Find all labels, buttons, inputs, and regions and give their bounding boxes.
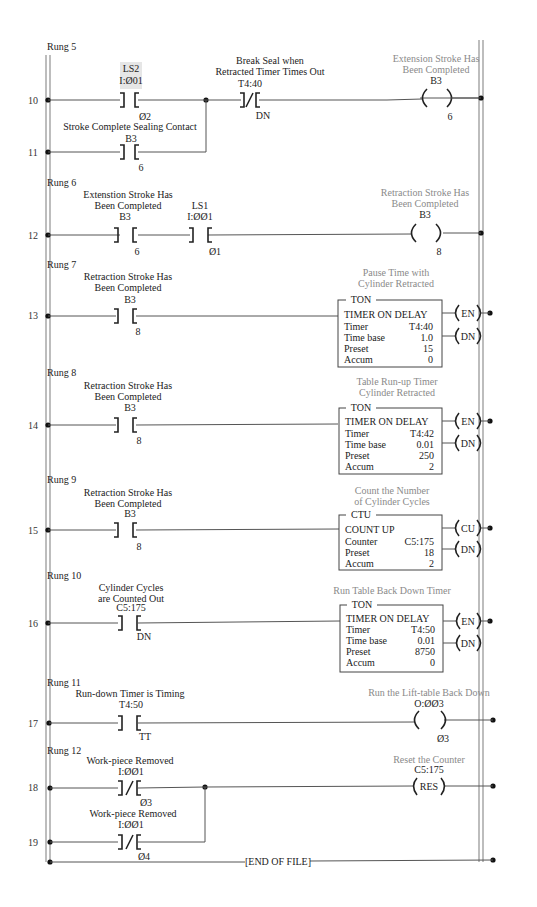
svg-text:DN: DN (256, 110, 270, 121)
svg-text:DN: DN (137, 631, 151, 642)
rung-9[interactable]: Rung 9 15 Retraction Stroke Has Been Com… (28, 474, 493, 570)
output-coil-b3-6[interactable]: Extension Stroke Has Been Completed B3 6 (387, 53, 479, 122)
svg-text:T4:40: T4:40 (238, 78, 262, 89)
svg-text:Been Completed: Been Completed (403, 64, 470, 75)
ctu-block-c5-175[interactable]: Count the Number of Cylinder Cycles CTU … (339, 485, 490, 570)
res-instruction-c5-175[interactable]: Reset the Counter C5:175 RES (393, 754, 465, 795)
svg-text:I:ØØ1: I:ØØ1 (118, 766, 144, 777)
svg-text:6: 6 (448, 111, 453, 122)
block-type-label: TON (351, 294, 371, 305)
contact-left-bracket (120, 93, 124, 107)
rung-label: Rung 8 (47, 367, 76, 378)
svg-text:Been Completed: Been Completed (95, 391, 162, 402)
xio-contact-i-001-03[interactable]: Work-piece Removed I:ØØ1 Ø3 (86, 755, 173, 808)
svg-text:Extension Stroke Has: Extension Stroke Has (393, 53, 480, 64)
svg-text:Cylinder Cycles: Cylinder Cycles (99, 582, 164, 593)
xic-contact-b3-8[interactable]: Retraction Stroke Has Been Completed B3 … (84, 487, 172, 552)
output-coil-b3-8[interactable]: Retraction Stroke Has Been Completed B3 … (381, 187, 469, 257)
rung-8[interactable]: Rung 8 14 Retraction Stroke Has Been Com… (28, 367, 493, 474)
svg-text:I:ØØ1: I:ØØ1 (118, 819, 144, 830)
svg-text:CU: CU (461, 523, 476, 534)
line-number: 10 (28, 95, 38, 106)
svg-text:Ø4: Ø4 (138, 851, 150, 862)
rung-12[interactable]: Rung 12 18 19 Work-piece Removed I:ØØ1 Ø… (28, 745, 496, 862)
svg-text:Retraction Stroke Has: Retraction Stroke Has (84, 271, 172, 282)
svg-text:Been Completed: Been Completed (95, 282, 162, 293)
rung-5[interactable]: Rung 5 10 11 LS2 I:Ø01 Ø2 Break Seal whe… (28, 41, 484, 173)
svg-text:Retraction Stroke Has: Retraction Stroke Has (84, 380, 172, 391)
svg-text:6: 6 (135, 246, 140, 257)
rung-10[interactable]: Rung 10 16 Cylinder Cycles are Counted O… (28, 570, 493, 672)
xic-contact-t4-50-tt[interactable]: Run-down Timer is Timing T4:50 TT (75, 688, 184, 742)
svg-text:8750: 8750 (415, 646, 435, 657)
svg-text:Timer: Timer (346, 624, 371, 635)
svg-text:B3: B3 (125, 133, 137, 144)
xic-contact-b3-6-seal[interactable]: Stroke Complete Sealing Contact B3 6 (63, 121, 197, 173)
svg-text:CTU: CTU (351, 509, 372, 520)
xio-contact-t4-40-dn[interactable]: Break Seal when Retracted Timer Times Ou… (215, 55, 324, 121)
svg-text:1.0: 1.0 (421, 332, 434, 343)
svg-text:Timer: Timer (345, 428, 370, 439)
svg-text:Cylinder Retracted: Cylinder Retracted (358, 278, 434, 289)
line-number: 14 (28, 420, 38, 431)
svg-text:2: 2 (429, 461, 434, 472)
svg-text:Accum: Accum (345, 461, 374, 472)
rung-label: Rung 10 (47, 570, 81, 581)
svg-text:Ø3: Ø3 (140, 797, 152, 808)
line-number: 16 (28, 618, 38, 629)
rung-11[interactable]: Rung 11 17 Run-down Timer is Timing T4:5… (28, 677, 496, 744)
svg-text:LS2: LS2 (123, 63, 140, 74)
rung-label: Rung 7 (47, 259, 76, 270)
line-number: 12 (28, 230, 38, 241)
svg-text:B3: B3 (419, 209, 431, 220)
right-power-rail (479, 40, 483, 862)
svg-text:Preset: Preset (344, 343, 369, 354)
svg-text:Been Completed: Been Completed (392, 198, 459, 209)
svg-text:C5:175: C5:175 (414, 764, 443, 775)
svg-text:Preset: Preset (346, 646, 371, 657)
svg-text:RES: RES (420, 781, 438, 792)
xic-contact-ls1[interactable]: LS1 I:ØØ1 Ø1 (187, 200, 221, 257)
xic-contact-b3-8[interactable]: Retraction Stroke Has Been Completed B3 … (84, 271, 172, 337)
svg-text:TIMER ON DELAY: TIMER ON DELAY (346, 613, 430, 624)
rung-label: Rung 11 (47, 677, 81, 688)
svg-text:Preset: Preset (345, 547, 370, 558)
svg-text:Accum: Accum (346, 657, 375, 668)
svg-text:Pause Time with: Pause Time with (363, 267, 430, 278)
svg-text:Stroke Complete Sealing Contac: Stroke Complete Sealing Contact (63, 121, 197, 132)
line-number: 19 (28, 837, 38, 848)
svg-text:Count the Number: Count the Number (355, 485, 430, 496)
ton-block-t4-40[interactable]: Pause Time with Cylinder Retracted TON T… (338, 267, 490, 367)
line-number: 18 (28, 782, 38, 793)
svg-text:TON: TON (351, 402, 371, 413)
svg-text:B3: B3 (124, 402, 136, 413)
xic-contact-b3-8[interactable]: Retraction Stroke Has Been Completed B3 … (84, 380, 172, 446)
svg-text:Accum: Accum (345, 558, 374, 569)
svg-text:15: 15 (423, 343, 433, 354)
rung-7[interactable]: Rung 7 13 Retraction Stroke Has Been Com… (28, 259, 493, 367)
svg-text:Run-down Timer is Timing: Run-down Timer is Timing (75, 688, 184, 699)
svg-text:Been Completed: Been Completed (95, 200, 162, 211)
output-coil-o-003-03[interactable]: Run the Lift-table Back Down O:ØØ3 Ø3 (368, 687, 490, 744)
line-number: 13 (28, 310, 38, 321)
svg-text:Table Run-up Timer: Table Run-up Timer (357, 376, 439, 387)
svg-text:DN: DN (461, 544, 475, 555)
xic-contact-c5-175-dn[interactable]: Cylinder Cycles are Counted Out C5:175 D… (98, 582, 164, 642)
svg-text:Time base: Time base (346, 635, 388, 646)
xic-contact-b3-6[interactable]: Extenstion Stroke Has Been Completed B3 … (83, 189, 173, 257)
xio-contact-i-001-04[interactable]: Work-piece Removed I:ØØ1 Ø4 (89, 808, 176, 862)
svg-text:Run the Lift-table Back Down: Run the Lift-table Back Down (368, 687, 490, 698)
svg-text:B3: B3 (124, 294, 136, 305)
line-number: 11 (28, 147, 38, 158)
svg-text:Ø1: Ø1 (209, 246, 221, 257)
ton-block-t4-50[interactable]: Run Table Back Down Timer TON TIMER ON D… (333, 585, 490, 672)
svg-text:C5:175: C5:175 (116, 602, 145, 613)
svg-text:Accum: Accum (344, 354, 373, 365)
svg-text:0.01: 0.01 (418, 635, 436, 646)
dn-bit: DN (461, 331, 475, 342)
rung-6[interactable]: Rung 6 12 Extenstion Stroke Has Been Com… (28, 177, 484, 257)
svg-text:2: 2 (429, 558, 434, 569)
svg-text:Cylinder Retracted: Cylinder Retracted (359, 387, 435, 398)
xic-contact-ls2[interactable]: LS2 I:Ø01 Ø2 (119, 62, 151, 122)
ton-block-t4-42[interactable]: Table Run-up Timer Cylinder Retracted TO… (339, 376, 490, 474)
